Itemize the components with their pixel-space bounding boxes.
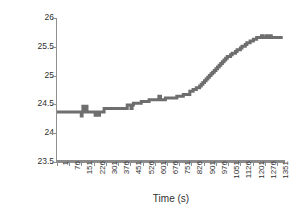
x-tick-mark xyxy=(106,163,107,166)
y-tick-label: 24.5 xyxy=(30,99,54,108)
y-tick-mark xyxy=(52,18,56,19)
data-series-svg xyxy=(57,18,285,162)
x-tick-mark xyxy=(191,163,192,166)
y-tick-label: 24 xyxy=(30,128,54,137)
x-tick-mark xyxy=(240,163,241,166)
y-tick-mark xyxy=(52,47,56,48)
y-tick-mark xyxy=(52,133,56,134)
y-tick-mark xyxy=(52,162,56,163)
chart-figure: RESS temperature (°C) 23.52424.52525.526… xyxy=(0,0,290,218)
x-tick-mark xyxy=(228,163,229,166)
y-axis-tick-labels: 23.52424.52525.526 xyxy=(28,0,54,218)
data-series-line xyxy=(57,36,283,116)
x-tick-mark xyxy=(265,163,266,166)
y-tick-label: 26 xyxy=(30,13,54,22)
x-tick-mark xyxy=(118,163,119,166)
x-tick-mark xyxy=(143,163,144,166)
x-tick-mark xyxy=(94,163,95,166)
y-tick-label: 25 xyxy=(30,71,54,80)
x-tick-mark xyxy=(57,163,58,166)
plot-area xyxy=(57,18,285,162)
x-tick-mark xyxy=(277,163,278,166)
x-tick-mark xyxy=(204,163,205,166)
x-tick-mark xyxy=(130,163,131,166)
y-tick-mark xyxy=(52,76,56,77)
y-tick-mark xyxy=(52,104,56,105)
x-tick-mark xyxy=(69,163,70,166)
y-tick-label: 25.5 xyxy=(30,42,54,51)
x-tick-mark xyxy=(155,163,156,166)
x-axis-tick-labels: 1761512263013764515266016767518269019761… xyxy=(57,164,285,194)
y-tick-label: 23.5 xyxy=(30,157,54,166)
x-tick-mark xyxy=(167,163,168,166)
x-tick-mark xyxy=(81,163,82,166)
x-tick-mark xyxy=(253,163,254,166)
x-tick-mark xyxy=(179,163,180,166)
x-tick-mark xyxy=(216,163,217,166)
x-tick-label: 1351 xyxy=(281,161,290,191)
x-axis-label: Time (s) xyxy=(57,193,285,204)
